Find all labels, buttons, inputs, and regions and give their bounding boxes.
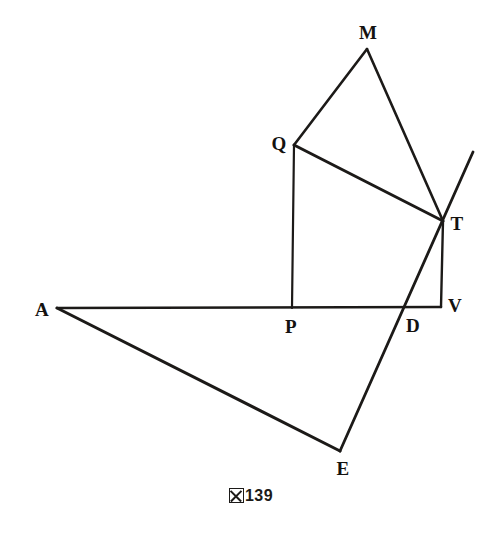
geometry-canvas	[0, 0, 502, 534]
vertex-label-V: V	[448, 296, 462, 315]
figure-container: M Q T P D V A E 139	[0, 0, 502, 534]
vertex-label-A: A	[35, 300, 49, 319]
vertex-label-Q: Q	[272, 134, 287, 153]
caption-number: 139	[245, 487, 273, 504]
vertex-label-M: M	[359, 23, 377, 42]
segment-A-V	[57, 307, 441, 308]
vertex-label-P: P	[285, 317, 297, 336]
figure-caption: 139	[0, 487, 502, 505]
vertex-label-D: D	[406, 316, 420, 335]
segment-Q-M	[294, 49, 367, 145]
segment-A-E	[57, 308, 340, 451]
segment-Q-P	[292, 145, 294, 308]
segment-Q-T	[294, 145, 443, 221]
vertex-label-T: T	[451, 214, 464, 233]
segment-T-V	[441, 221, 443, 307]
vertex-label-E: E	[337, 459, 350, 478]
edge-group	[57, 49, 473, 451]
segment-M-T	[367, 49, 443, 221]
zu-kanji-icon	[229, 488, 244, 503]
